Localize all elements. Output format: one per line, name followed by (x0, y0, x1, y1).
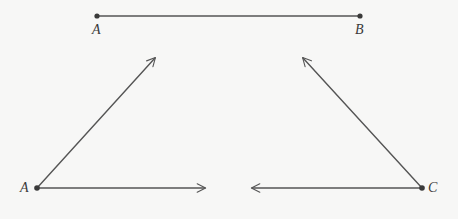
label-b-top: B (355, 23, 364, 37)
point-b-top-dot (357, 13, 362, 18)
point-a-angle-dot (34, 185, 40, 191)
geometry-diagram: A B A C (0, 0, 458, 219)
ray-a-diagonal (37, 58, 155, 188)
point-c-angle-dot (419, 185, 425, 191)
point-a-top-dot (94, 13, 99, 18)
label-a-angle: A (20, 181, 29, 195)
label-c-angle: C (428, 181, 437, 195)
geometry-canvas (0, 0, 458, 219)
label-a-top: A (92, 23, 101, 37)
ray-c-diagonal (303, 58, 422, 188)
